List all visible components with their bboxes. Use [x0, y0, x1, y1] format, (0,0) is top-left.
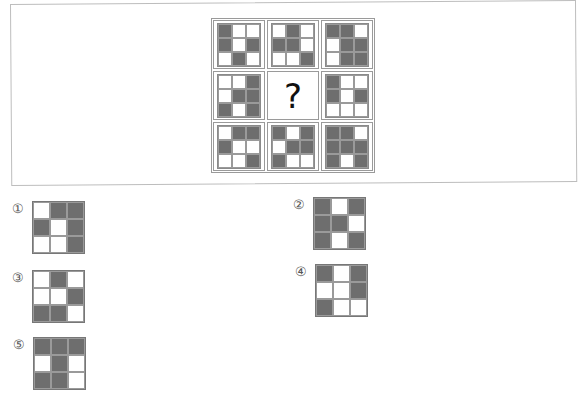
empty-square — [340, 89, 354, 103]
option-4[interactable]: ④ — [295, 264, 368, 317]
empty-square — [50, 219, 67, 236]
empty-square — [354, 75, 368, 89]
mini-grid — [325, 125, 369, 169]
filled-square — [354, 52, 368, 66]
filled-square — [340, 140, 354, 154]
empty-square — [218, 89, 232, 103]
empty-square — [286, 126, 300, 140]
filled-square — [68, 338, 85, 355]
filled-square — [218, 140, 232, 154]
empty-square — [326, 52, 340, 66]
option-5-grid — [33, 337, 86, 390]
empty-square — [340, 154, 354, 168]
mini-grid — [271, 125, 315, 169]
mini-grid — [217, 125, 261, 169]
filled-square — [232, 89, 246, 103]
empty-square — [33, 236, 50, 253]
filled-square — [51, 338, 68, 355]
filled-square — [33, 305, 50, 322]
filled-square — [50, 271, 67, 288]
empty-square — [300, 24, 314, 38]
empty-square — [232, 103, 246, 117]
filled-square — [350, 282, 367, 299]
filled-square — [314, 198, 331, 215]
empty-square — [246, 52, 260, 66]
empty-square — [246, 24, 260, 38]
empty-square — [340, 103, 354, 117]
filled-square — [218, 38, 232, 52]
empty-square — [300, 154, 314, 168]
filled-square — [51, 372, 68, 389]
filled-square — [67, 202, 84, 219]
filled-square — [314, 215, 331, 232]
empty-square — [333, 282, 350, 299]
empty-square — [350, 299, 367, 316]
matrix-cell — [213, 122, 265, 171]
empty-square — [354, 24, 368, 38]
option-3-label: ③ — [12, 270, 32, 285]
mini-grid — [271, 23, 315, 67]
empty-square — [218, 52, 232, 66]
option-5[interactable]: ⑤ — [13, 337, 86, 390]
filled-square — [340, 24, 354, 38]
option-3[interactable]: ③ — [12, 270, 85, 323]
empty-square — [331, 232, 348, 249]
filled-square — [340, 126, 354, 140]
empty-square — [218, 126, 232, 140]
mini-grid — [217, 23, 261, 67]
filled-square — [246, 126, 260, 140]
filled-square — [286, 140, 300, 154]
matrix-cell — [267, 122, 319, 171]
filled-square — [50, 202, 67, 219]
filled-square — [314, 232, 331, 249]
option-1-label: ① — [12, 201, 32, 216]
matrix-cell — [213, 20, 265, 69]
filled-square — [246, 38, 260, 52]
empty-square — [232, 24, 246, 38]
filled-square — [300, 52, 314, 66]
mini-grid — [217, 74, 261, 118]
filled-square — [246, 75, 260, 89]
filled-square — [67, 236, 84, 253]
empty-square — [218, 154, 232, 168]
missing-cell: ? — [267, 71, 319, 120]
empty-square — [272, 140, 286, 154]
filled-square — [218, 24, 232, 38]
empty-square — [300, 38, 314, 52]
filled-square — [326, 126, 340, 140]
empty-square — [33, 202, 50, 219]
matrix-cell — [321, 20, 373, 69]
empty-square — [272, 52, 286, 66]
empty-square — [68, 372, 85, 389]
option-4-grid — [315, 264, 368, 317]
empty-square — [67, 305, 84, 322]
filled-square — [340, 38, 354, 52]
empty-square — [331, 198, 348, 215]
option-1-grid — [32, 201, 85, 254]
filled-square — [67, 288, 84, 305]
filled-square — [331, 215, 348, 232]
option-2[interactable]: ② — [293, 197, 366, 250]
filled-square — [340, 52, 354, 66]
empty-square — [286, 154, 300, 168]
filled-square — [354, 38, 368, 52]
filled-square — [34, 372, 51, 389]
filled-square — [232, 126, 246, 140]
option-1[interactable]: ① — [12, 201, 85, 254]
filled-square — [286, 24, 300, 38]
pattern-matrix: ? — [211, 18, 375, 173]
filled-square — [246, 103, 260, 117]
filled-square — [348, 198, 365, 215]
filled-square — [326, 154, 340, 168]
empty-square — [67, 271, 84, 288]
empty-square — [340, 75, 354, 89]
filled-square — [350, 265, 367, 282]
filled-square — [33, 219, 50, 236]
filled-square — [272, 154, 286, 168]
mini-grid — [325, 74, 369, 118]
filled-square — [354, 154, 368, 168]
empty-square — [326, 103, 340, 117]
filled-square — [286, 38, 300, 52]
filled-square — [232, 52, 246, 66]
empty-square — [316, 282, 333, 299]
